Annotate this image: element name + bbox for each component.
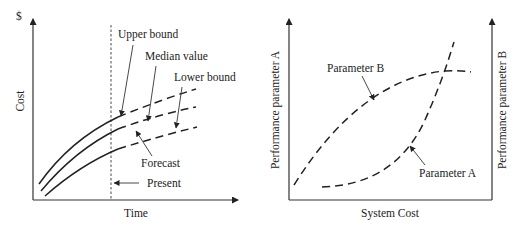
lower-bound-pointer-arrow-icon	[176, 87, 182, 128]
left-axis-label: Performance parameter A	[269, 50, 282, 169]
median-value-label: Median value	[145, 50, 208, 62]
right-axis-label: Performance parameter B	[496, 51, 509, 169]
parameter-b-pointer-arrow-icon	[362, 76, 374, 100]
present-label: Present	[147, 177, 182, 189]
upper-bound-label: Upper bound	[118, 28, 179, 41]
performance-vs-cost-diagram: Performance parameter A Performance para…	[269, 19, 509, 220]
diagram-canvas: $ Cost Time Upper bound Median value Low…	[0, 0, 521, 232]
parameter-b-label: Parameter B	[327, 62, 384, 74]
x-axis-label: System Cost	[361, 207, 420, 220]
cost-forecast-diagram: $ Cost Time Upper bound Median value Low…	[14, 10, 238, 219]
y-axis-label: Cost	[14, 90, 26, 112]
parameter-a-label: Parameter A	[419, 167, 477, 179]
y-axis-unit: $	[16, 10, 22, 22]
lower-bound-label: Lower bound	[174, 71, 236, 83]
upper-bound-curve	[39, 89, 196, 184]
forecast-label: Forecast	[141, 157, 181, 169]
parameter-a-pointer-arrow-icon	[410, 146, 425, 165]
median-value-pointer-arrow-icon	[148, 66, 156, 121]
x-axis-label: Time	[124, 207, 148, 219]
upper-bound-pointer-arrow-icon	[121, 45, 133, 116]
